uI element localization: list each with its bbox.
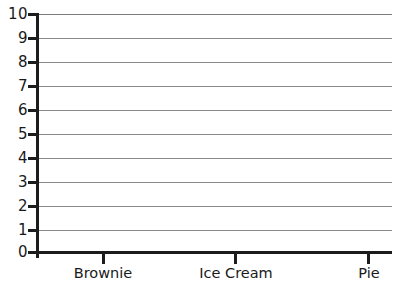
- bar-chart-template: 10 9 8 7 6 5 4 3 2 1 0 Brownie Ice Cream…: [0, 0, 414, 293]
- gridline-6: [38, 110, 392, 111]
- y-tick-label-9: 9: [18, 31, 28, 46]
- y-tick-label-0: 0: [18, 245, 28, 260]
- y-tick-mark-1: [28, 229, 38, 232]
- y-tick-label-1: 1: [18, 223, 28, 238]
- y-tick-mark-6: [28, 109, 38, 112]
- gridline-7: [38, 86, 392, 87]
- gridline-5: [38, 134, 392, 135]
- gridline-1: [38, 230, 392, 231]
- x-tick-mark-pie: [367, 254, 370, 264]
- x-tick-label-pie: Pie: [358, 266, 379, 281]
- y-tick-mark-7: [28, 85, 38, 88]
- y-tick-label-5: 5: [18, 127, 28, 142]
- y-tick-label-2: 2: [18, 199, 28, 214]
- y-tick-mark-8: [28, 61, 38, 64]
- y-tick-mark-3: [28, 181, 38, 184]
- y-tick-label-6: 6: [18, 103, 28, 118]
- gridline-8: [38, 62, 392, 63]
- x-axis-line: [36, 251, 392, 254]
- y-tick-label-10: 10: [8, 7, 28, 22]
- gridline-2: [38, 206, 392, 207]
- y-tick-mark-9: [28, 37, 38, 40]
- y-tick-label-3: 3: [18, 175, 28, 190]
- x-tick-mark-ice-cream: [234, 254, 237, 264]
- gridline-3: [38, 182, 392, 183]
- y-tick-mark-0: [28, 251, 38, 254]
- x-tick-mark-brownie: [102, 254, 105, 264]
- x-tick-label-ice-cream: Ice Cream: [199, 266, 272, 281]
- y-tick-mark-10: [28, 13, 38, 16]
- y-tick-label-4: 4: [18, 151, 28, 166]
- y-tick-mark-2: [28, 205, 38, 208]
- y-tick-label-7: 7: [18, 79, 28, 94]
- x-tick-label-brownie: Brownie: [74, 266, 132, 281]
- y-tick-mark-4: [28, 157, 38, 160]
- y-tick-label-8: 8: [18, 55, 28, 70]
- gridline-9: [38, 38, 392, 39]
- gridline-10: [38, 14, 392, 15]
- gridline-4: [38, 158, 392, 159]
- y-tick-mark-5: [28, 133, 38, 136]
